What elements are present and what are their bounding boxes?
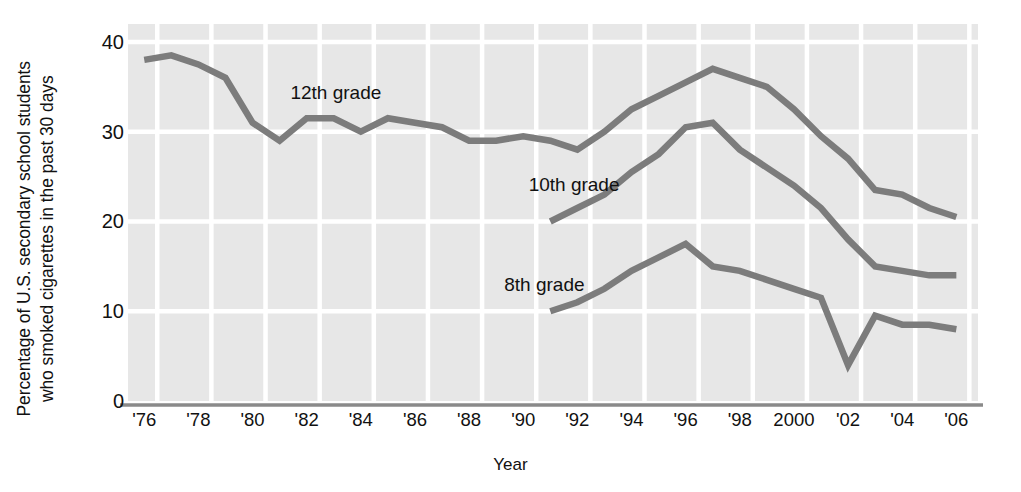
x-axis-title: Year — [0, 455, 1021, 475]
x-tick-label: '84 — [349, 409, 373, 431]
x-tick-label: '98 — [728, 409, 752, 431]
x-tick-label: '06 — [944, 409, 968, 431]
x-tick-label: '78 — [186, 409, 210, 431]
x-tick-label: '86 — [403, 409, 427, 431]
x-tick-label: '82 — [295, 409, 319, 431]
y-axis-title: Percentage of U.S. secondary school stud… — [13, 39, 59, 439]
y-tick-label: 20 — [80, 210, 124, 233]
x-tick-label: '02 — [836, 409, 860, 431]
y-tick-label: 0 — [80, 390, 124, 413]
x-tick-label: '80 — [240, 409, 264, 431]
x-tick-label: 2000 — [773, 409, 814, 431]
y-tick-label: 10 — [80, 300, 124, 323]
x-tick-label: '76 — [132, 409, 156, 431]
series-label-10th-grade: 10th grade — [529, 174, 620, 196]
x-tick-label: '90 — [511, 409, 535, 431]
y-tick-label: 40 — [80, 30, 124, 53]
x-tick-label: '94 — [619, 409, 643, 431]
x-tick-label: '92 — [565, 409, 589, 431]
x-tick-label: '96 — [674, 409, 698, 431]
x-tick-label: '04 — [890, 409, 914, 431]
plot-background — [128, 24, 978, 401]
series-label-8th-grade: 8th grade — [504, 274, 584, 296]
smoking-trends-line-chart: Percentage of U.S. secondary school stud… — [0, 0, 1021, 492]
y-axis-tick-labels: 010203040 — [72, 0, 124, 492]
y-tick-label: 30 — [80, 120, 124, 143]
x-tick-label: '88 — [457, 409, 481, 431]
series-label-12th-grade: 12th grade — [290, 82, 381, 104]
